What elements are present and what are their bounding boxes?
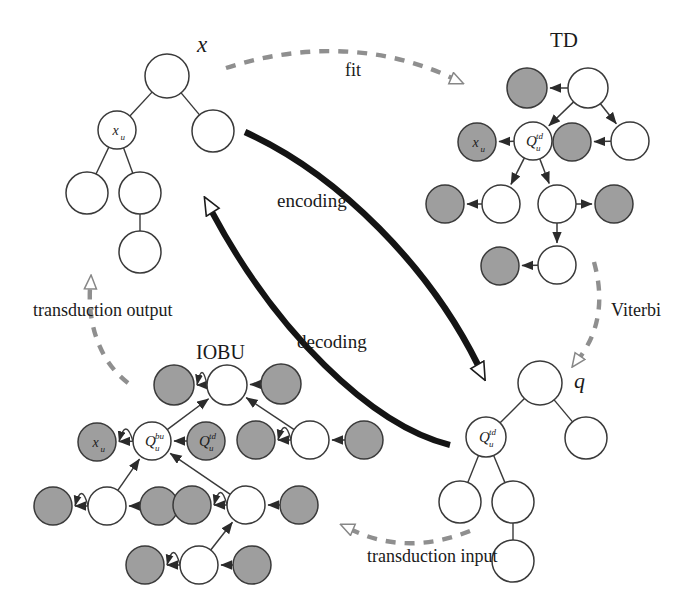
iobu-curved-edge [214,493,227,506]
iobu-node [227,486,265,524]
tree-q-edge [554,400,572,422]
svg-text:td: td [209,431,217,441]
tree-q-node [518,361,562,405]
iobu-node [280,486,318,524]
iobu-node [233,546,271,584]
label-encoding: encoding [277,190,347,212]
tree-x-node [145,54,189,98]
svg-text:u: u [101,444,106,454]
svg-text:bu: bu [155,431,165,441]
td-node [538,185,576,223]
graph-iobu: QubuxuQutd [34,364,383,584]
svg-text:x: x [112,123,120,138]
iobu-edge [211,522,233,550]
tree-q-edge [494,455,505,482]
td-node [426,185,464,223]
label-decoding: decoding [297,331,367,353]
label-iobu-title: IOBU [196,341,245,364]
td-edge [600,104,616,124]
svg-text:td: td [489,427,497,437]
tree-q-node [492,540,534,582]
graph-td: Qutdxu [426,68,649,285]
tree-x-edge [124,148,133,173]
svg-text:td: td [536,131,544,141]
svg-text:u: u [536,143,541,153]
svg-text:u: u [489,439,494,449]
td-node [568,68,608,108]
svg-text:x: x [472,135,480,150]
tree-x: xu [66,54,234,273]
label-td-title: TD [550,28,578,53]
iobu-curved-edge [278,428,291,441]
iobu-node [88,487,126,525]
td-node [507,68,547,108]
iobu-curved-edge [167,553,180,566]
iobu-node [261,364,301,404]
svg-text:u: u [209,443,214,453]
tree-x-edge [96,147,109,174]
svg-text:u: u [155,443,160,453]
td-edge [549,102,574,126]
label-tree-x: x [197,32,207,58]
tree-q-edge [468,456,479,483]
iobu-node [207,365,247,405]
iobu-node [180,546,218,584]
label-viterbi: Viterbi [611,300,661,321]
iobu-node [126,546,164,584]
label-tree-q: q [574,368,585,394]
label-fit: fit [345,60,361,81]
iobu-curved-edge [75,494,88,507]
tree-q-node [439,481,481,523]
tree-x-node [192,110,234,152]
transduction-input-arrow [352,530,470,543]
iobu-node [173,486,211,524]
iobu-edge [118,459,140,490]
fit-arrow [226,51,452,78]
iobu-node [291,421,329,459]
svg-text:u: u [121,132,126,142]
viterbi-arrow [580,262,599,357]
svg-text:u: u [481,144,486,154]
tree-x-node [66,172,108,214]
diagram-canvas: xu Qutd Qutdxu QubuxuQutd x TD IOBU q fi… [0,0,694,615]
label-transduction-output: transduction output [33,300,172,321]
iobu-node [154,365,194,405]
tree-q-edge [500,399,524,423]
tree-q-node [492,481,534,523]
td-node [482,185,520,223]
iobu-node [345,421,383,459]
svg-text:x: x [92,435,100,450]
tree-x-edge [130,92,152,116]
td-edge [511,158,524,184]
tree-x-edge [181,93,199,115]
td-node [538,246,576,284]
iobu-node [34,487,72,525]
tree-q-node [565,417,607,459]
iobu-curved-edge [197,373,207,386]
tree-x-node [119,172,161,214]
tree-x-node [119,231,161,273]
label-transduction-input: transduction input [367,546,497,567]
iobu-curved-edge [119,429,133,442]
decoding-arrow [212,212,450,445]
td-node [481,247,519,285]
td-node [595,185,633,223]
td-node [611,122,649,160]
td-edge [540,159,549,184]
iobu-node [237,421,275,459]
td-node [553,123,591,161]
